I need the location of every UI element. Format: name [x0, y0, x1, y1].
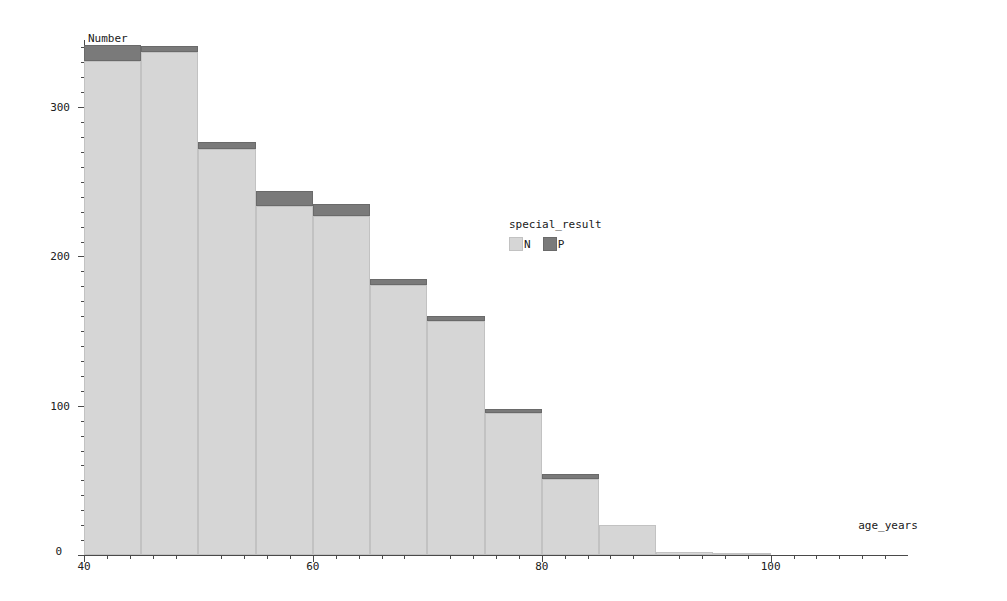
x-tick-minor	[404, 556, 405, 559]
x-tick-label: 80	[535, 560, 548, 573]
x-tick-minor	[244, 556, 245, 559]
x-tick-minor	[748, 556, 749, 559]
bar-group[interactable]	[599, 525, 656, 555]
y-tick-label: 200	[0, 250, 70, 263]
legend-swatch-n-icon	[509, 237, 523, 251]
legend-label: P	[558, 239, 565, 250]
x-tick-minor	[885, 556, 886, 559]
x-tick-minor	[633, 556, 634, 559]
bar-segment-p[interactable]	[84, 45, 141, 61]
x-tick-minor	[290, 556, 291, 559]
bar-group[interactable]	[542, 474, 599, 555]
bar-segment-n[interactable]	[599, 525, 656, 555]
x-tick-minor	[794, 556, 795, 559]
x-tick-minor	[588, 556, 589, 559]
x-tick-label: 40	[77, 560, 90, 573]
bar-group[interactable]	[656, 552, 713, 555]
x-tick-minor	[450, 556, 451, 559]
x-tick-minor	[565, 556, 566, 559]
x-tick-minor	[130, 556, 131, 559]
x-tick-minor	[725, 556, 726, 559]
legend-swatch-p-icon	[543, 237, 557, 251]
x-tick-label: 100	[761, 560, 781, 573]
bar-group[interactable]	[713, 554, 770, 555]
legend-entry-n[interactable]: N	[509, 237, 531, 251]
x-tick-minor	[359, 556, 360, 559]
bar-segment-n[interactable]	[198, 149, 255, 555]
x-tick-minor	[107, 556, 108, 559]
legend: special_result NP	[509, 218, 602, 251]
x-tick-label: 60	[306, 560, 319, 573]
x-tick-minor	[336, 556, 337, 559]
bar-segment-n[interactable]	[256, 206, 313, 555]
bar-segment-p[interactable]	[485, 409, 542, 413]
legend-label: N	[524, 239, 531, 250]
bar-segment-n[interactable]	[427, 321, 484, 555]
bar-segment-n[interactable]	[485, 413, 542, 555]
bar-segment-n[interactable]	[141, 52, 198, 555]
x-tick-minor	[702, 556, 703, 559]
x-tick-minor	[862, 556, 863, 559]
bar-group[interactable]	[84, 44, 141, 555]
x-tick-minor	[176, 556, 177, 559]
bar-group[interactable]	[198, 142, 255, 555]
bar-segment-p[interactable]	[427, 316, 484, 320]
y-tick-label: 0	[38, 545, 62, 558]
bar-segment-n[interactable]	[713, 553, 770, 555]
legend-title: special_result	[509, 218, 602, 231]
bar-segment-p[interactable]	[313, 204, 370, 216]
plot-area-bars	[84, 40, 908, 555]
x-tick-minor	[473, 556, 474, 559]
x-tick-minor	[153, 556, 154, 559]
x-tick-minor	[382, 556, 383, 559]
bar-group[interactable]	[485, 409, 542, 555]
bar-segment-p[interactable]	[141, 46, 198, 52]
bar-segment-n[interactable]	[370, 285, 427, 555]
legend-items: NP	[509, 237, 602, 251]
x-tick-minor	[679, 556, 680, 559]
bar-group[interactable]	[256, 191, 313, 555]
bar-group[interactable]	[370, 279, 427, 555]
x-tick-minor	[839, 556, 840, 559]
x-tick-minor	[496, 556, 497, 559]
bar-segment-p[interactable]	[198, 142, 255, 149]
x-tick-minor	[610, 556, 611, 559]
bar-group[interactable]	[313, 204, 370, 555]
bar-segment-p[interactable]	[256, 191, 313, 206]
bar-group[interactable]	[141, 46, 198, 555]
bar-group[interactable]	[427, 316, 484, 555]
x-tick-minor	[221, 556, 222, 559]
bar-segment-n[interactable]	[313, 216, 370, 555]
x-tick-minor	[816, 556, 817, 559]
y-tick-label: 300	[0, 101, 70, 114]
bar-segment-n[interactable]	[84, 61, 141, 555]
bar-segment-p[interactable]	[542, 474, 599, 478]
histogram-chart: Number age_years 4060801000100200300 spe…	[0, 0, 1007, 601]
x-tick-minor	[519, 556, 520, 559]
x-tick-minor	[267, 556, 268, 559]
bar-segment-n[interactable]	[656, 552, 713, 555]
legend-entry-p[interactable]: P	[543, 237, 565, 251]
bar-segment-p[interactable]	[370, 279, 427, 285]
bar-segment-n[interactable]	[542, 479, 599, 555]
y-tick-label: 100	[0, 399, 70, 412]
y-tick-major	[78, 555, 84, 556]
